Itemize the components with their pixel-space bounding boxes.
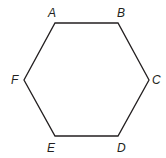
hexagon-shape: [24, 23, 149, 136]
vertex-label-e: E: [47, 141, 56, 155]
vertex-label-d: D: [117, 141, 126, 155]
vertex-label-c: C: [152, 73, 161, 87]
vertex-label-a: A: [47, 6, 56, 20]
vertex-label-b: B: [117, 6, 125, 20]
hexagon-diagram: A B C D E F: [0, 0, 166, 158]
vertex-label-f: F: [11, 73, 19, 87]
